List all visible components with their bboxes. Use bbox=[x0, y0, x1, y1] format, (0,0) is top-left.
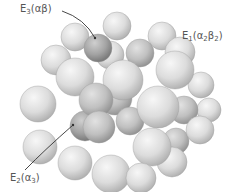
subunit-sphere bbox=[133, 128, 171, 166]
label-paren: ) bbox=[48, 3, 52, 14]
label-paren: ) bbox=[36, 172, 40, 183]
subunit-sphere bbox=[103, 12, 131, 40]
label-paren: ) bbox=[219, 30, 223, 41]
leader-arrowhead bbox=[72, 124, 74, 126]
subunit-sphere bbox=[20, 86, 56, 122]
protein-complex-diagram bbox=[0, 0, 238, 192]
leader-arrowhead bbox=[94, 37, 96, 39]
subunit-sphere bbox=[83, 111, 115, 143]
label-e2-alpha3: E2(α3) bbox=[10, 172, 40, 185]
subunit-sphere bbox=[186, 116, 214, 144]
label-e1-alpha2-beta2: E1(α2β2) bbox=[182, 30, 223, 43]
subunit-sphere bbox=[58, 146, 92, 180]
subunit-sphere bbox=[126, 163, 156, 192]
label-e3-alpha-beta: E3(αβ) bbox=[20, 3, 52, 16]
subunit-sphere bbox=[23, 130, 57, 164]
label-greek: αβ bbox=[35, 3, 48, 14]
subunit-sphere bbox=[84, 34, 112, 62]
subunit-sphere bbox=[156, 51, 194, 89]
subunit-sphere bbox=[137, 86, 179, 128]
subunit-sphere bbox=[92, 155, 130, 192]
